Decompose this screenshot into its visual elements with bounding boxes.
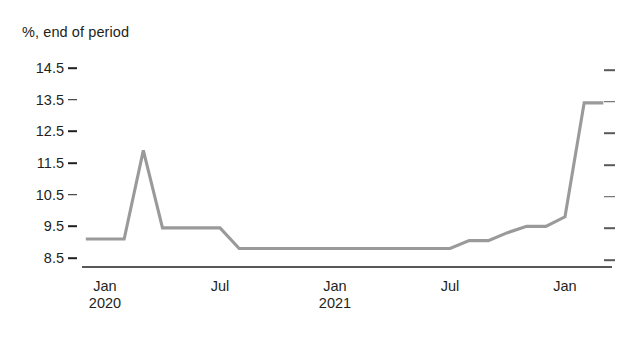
series-line: [86, 103, 604, 249]
plot-area: [0, 0, 643, 340]
chart-container: %, end of period 8.59.510.511.512.513.51…: [0, 0, 643, 340]
